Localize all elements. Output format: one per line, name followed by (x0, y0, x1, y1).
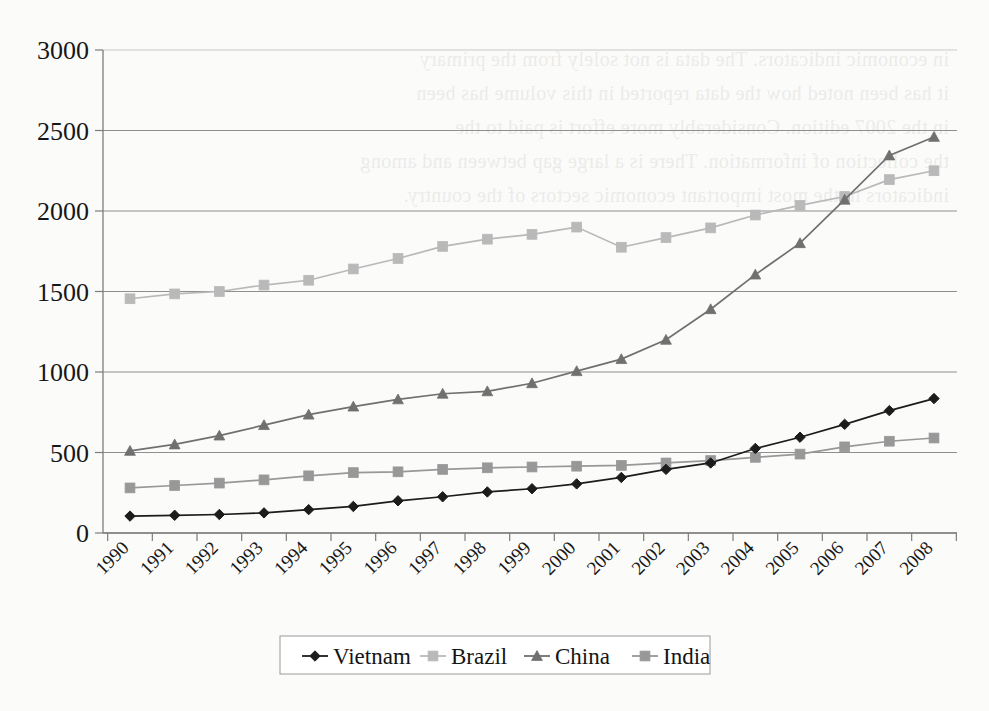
data-point-brazil-2008 (929, 166, 939, 176)
data-point-brazil-1995 (348, 264, 358, 274)
marker-square (214, 287, 224, 297)
data-point-brazil-1993 (259, 280, 269, 290)
marker-square (170, 289, 180, 299)
data-point-vietnam-1994 (303, 504, 313, 514)
marker-square (348, 468, 358, 478)
marker-square (304, 471, 314, 481)
data-point-brazil-2001 (616, 242, 626, 252)
x-tick-label: 2008 (895, 537, 937, 579)
x-tick-label: 1999 (493, 537, 535, 579)
line-chart: 0500100015002000250030001990199119921993… (0, 0, 989, 711)
marker-square (616, 242, 626, 252)
legend-label-vietnam: Vietnam (333, 644, 411, 669)
data-point-india-1991 (170, 481, 180, 491)
marker-square (572, 461, 582, 471)
marker-diamond (437, 492, 447, 502)
series-brazil (125, 166, 939, 304)
marker-diamond (393, 496, 403, 506)
data-point-india-2006 (840, 442, 850, 452)
marker-square (884, 175, 894, 185)
data-point-vietnam-1995 (348, 501, 358, 511)
series-line-china (130, 137, 934, 451)
marker-diamond (571, 479, 581, 489)
data-point-china-2007 (884, 150, 895, 160)
marker-square (348, 264, 358, 274)
x-tick-label: 2001 (582, 537, 624, 579)
x-tick-label: 1995 (314, 537, 356, 579)
marker-square (259, 475, 269, 485)
marker-square (393, 467, 403, 477)
data-point-brazil-2002 (661, 233, 671, 243)
marker-square (170, 481, 180, 491)
data-point-brazil-2003 (706, 223, 716, 233)
marker-diamond (929, 393, 939, 403)
marker-diamond (348, 501, 358, 511)
data-point-india-2005 (795, 449, 805, 459)
series-vietnam (125, 393, 939, 521)
data-point-china-2002 (661, 334, 672, 344)
marker-square (482, 463, 492, 473)
marker-square (795, 449, 805, 459)
marker-square (304, 275, 314, 285)
marker-square (482, 234, 492, 244)
marker-triangle (750, 269, 761, 279)
marker-square (572, 222, 582, 232)
x-tick-label: 2007 (850, 537, 892, 579)
data-point-brazil-2005 (795, 200, 805, 210)
data-point-china-2008 (929, 132, 940, 142)
marker-square (428, 651, 438, 661)
marker-square (125, 294, 135, 304)
data-point-vietnam-2000 (571, 479, 581, 489)
marker-diamond (169, 510, 179, 520)
y-tick-label: 1500 (37, 278, 89, 307)
marker-diamond (616, 472, 626, 482)
x-tick-label: 1998 (448, 537, 490, 579)
data-point-vietnam-1996 (393, 496, 403, 506)
data-point-india-1993 (259, 475, 269, 485)
data-point-brazil-1996 (393, 254, 403, 264)
marker-diamond (214, 509, 224, 519)
x-tick-label: 2004 (716, 537, 758, 579)
marker-square (259, 280, 269, 290)
marker-diamond (839, 419, 849, 429)
data-point-vietnam-2001 (616, 472, 626, 482)
data-point-india-1996 (393, 467, 403, 477)
marker-diamond (125, 511, 135, 521)
data-point-india-2000 (572, 461, 582, 471)
data-point-vietnam-2005 (795, 432, 805, 442)
legend-marker-india (640, 651, 650, 661)
marker-square (527, 462, 537, 472)
marker-square (884, 436, 894, 446)
marker-square (125, 483, 135, 493)
marker-square (616, 460, 626, 470)
legend-marker-brazil (428, 651, 438, 661)
y-tick-label: 2000 (37, 197, 89, 226)
data-point-brazil-1991 (170, 289, 180, 299)
data-point-brazil-1997 (438, 242, 448, 252)
data-point-india-1998 (482, 463, 492, 473)
chart-svg: 0500100015002000250030001990199119921993… (0, 0, 989, 711)
marker-square (438, 465, 448, 475)
x-tick-label: 1990 (91, 537, 133, 579)
marker-square (750, 210, 760, 220)
x-tick-label: 1992 (180, 537, 222, 579)
data-point-vietnam-1997 (437, 492, 447, 502)
legend-label-china: China (555, 644, 610, 669)
marker-diamond (884, 405, 894, 415)
data-point-india-1997 (438, 465, 448, 475)
marker-square (840, 442, 850, 452)
data-point-brazil-2007 (884, 175, 894, 185)
marker-triangle (884, 150, 895, 160)
data-point-vietnam-2007 (884, 405, 894, 415)
x-tick-label: 1993 (225, 537, 267, 579)
data-point-vietnam-2008 (929, 393, 939, 403)
marker-square (640, 651, 650, 661)
y-tick-label: 2500 (37, 117, 89, 146)
data-point-vietnam-1992 (214, 509, 224, 519)
series-line-vietnam (130, 399, 934, 517)
legend: VietnamBrazilChinaIndia (280, 636, 710, 674)
marker-triangle (616, 354, 627, 364)
data-point-brazil-2004 (750, 210, 760, 220)
marker-diamond (259, 508, 269, 518)
marker-square (661, 233, 671, 243)
